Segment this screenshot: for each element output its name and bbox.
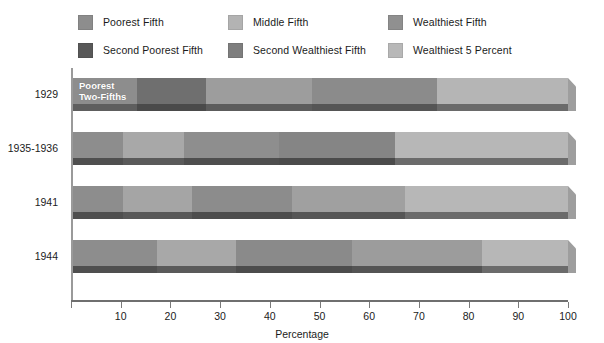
legend-item-wealthiest_fifth: Wealthiest Fifth <box>388 8 578 36</box>
bar-segment-second_poorest_fifth <box>123 186 191 212</box>
row-label-1929: 1929 <box>0 88 58 100</box>
bar-segment-middle_fifth <box>184 132 279 158</box>
chart-legend: Poorest FifthSecond Poorest FifthMiddle … <box>78 8 578 64</box>
bar-segment-shadow-middle_fifth <box>184 158 279 165</box>
x-tick-50 <box>320 302 321 308</box>
bar-segment-second_poorest_fifth <box>157 240 236 266</box>
bar-segment-shadow-second_poorest_fifth <box>123 158 183 165</box>
legend-item-poorest_fifth: Poorest Fifth <box>78 8 228 36</box>
bar-segment-second_wealthiest_fifth <box>352 240 483 266</box>
x-tick-label-10: 10 <box>115 310 127 322</box>
legend-swatch-wealthiest_5_percent <box>388 43 403 58</box>
bar-segment-poorest_fifth <box>73 132 123 158</box>
row-label-1944: 1944 <box>0 250 58 262</box>
bar-segment-wealthiest_fifth <box>482 240 568 266</box>
legend-swatch-wealthiest_fifth <box>388 15 403 30</box>
x-tick-90 <box>518 302 519 308</box>
bar-right-cap <box>568 132 576 165</box>
x-tick-label-40: 40 <box>264 310 276 322</box>
bar-segment-shadow-wealthiest_fifth <box>437 104 568 111</box>
bar-bottom-edge <box>73 266 568 273</box>
bar-segment-shadow-second_poorest_fifth <box>157 266 236 273</box>
bar-face <box>73 132 568 158</box>
bar-segment-second_wealthiest_fifth <box>279 132 395 158</box>
x-axis-title: Percentage <box>0 328 604 340</box>
bar-row: 1929Poorest Two-Fifths <box>0 76 604 122</box>
bar-face <box>73 240 568 266</box>
x-tick-30 <box>220 302 221 308</box>
bar-segment-shadow-poorest_fifth <box>73 104 137 111</box>
bar-segment-shadow-second_poorest_fifth <box>137 104 205 111</box>
legend-swatch-second_poorest_fifth <box>78 43 93 58</box>
bar-segment-second_poorest_fifth <box>123 132 183 158</box>
bar-segment-shadow-middle_fifth <box>236 266 351 273</box>
bar-row: 1944 <box>0 238 604 284</box>
x-tick-label-90: 90 <box>512 310 524 322</box>
x-tick-0 <box>71 302 72 308</box>
bar-segment-poorest_fifth <box>73 78 137 104</box>
legend-label-wealthiest_fifth: Wealthiest Fifth <box>413 16 487 28</box>
row-label-1941: 1941 <box>0 196 58 208</box>
legend-label-second_poorest_fifth: Second Poorest Fifth <box>103 44 203 56</box>
bar-segment-middle_fifth <box>192 186 292 212</box>
bar-segment-second_wealthiest_fifth <box>312 78 437 104</box>
bar-segment-wealthiest_fifth <box>405 186 568 212</box>
row-label-1935-1936: 1935-1936 <box>0 142 58 154</box>
bar-row: 1941 <box>0 184 604 230</box>
x-tick-70 <box>419 302 420 308</box>
x-tick-80 <box>469 302 470 308</box>
legend-label-wealthiest_5_percent: Wealthiest 5 Percent <box>413 44 512 56</box>
bar-right-cap <box>568 186 576 219</box>
x-tick-40 <box>270 302 271 308</box>
legend-item-wealthiest_5_percent: Wealthiest 5 Percent <box>388 36 578 64</box>
stacked-bar-1935-1936 <box>73 132 568 166</box>
legend-label-middle_fifth: Middle Fifth <box>253 16 308 28</box>
bar-segment-shadow-poorest_fifth <box>73 212 123 219</box>
x-tick-label-70: 70 <box>413 310 425 322</box>
bar-bottom-edge <box>73 158 568 165</box>
legend-swatch-second_wealthiest_fifth <box>228 43 243 58</box>
bar-segment-wealthiest_fifth <box>437 78 568 104</box>
legend-item-second_poorest_fifth: Second Poorest Fifth <box>78 36 228 64</box>
bar-bottom-edge <box>73 212 568 219</box>
x-tick-20 <box>170 302 171 308</box>
legend-label-second_wealthiest_fifth: Second Wealthiest Fifth <box>253 44 366 56</box>
x-tick-10 <box>121 302 122 308</box>
bar-segment-shadow-poorest_fifth <box>73 266 157 273</box>
stacked-bar-1944 <box>73 240 568 274</box>
legend-swatch-middle_fifth <box>228 15 243 30</box>
bar-segment-second_poorest_fifth <box>137 78 205 104</box>
x-tick-60 <box>369 302 370 308</box>
bar-segment-shadow-second_wealthiest_fifth <box>312 104 437 111</box>
x-tick-label-30: 30 <box>214 310 226 322</box>
chart-plot-area: 1929Poorest Two-Fifths1935-193619411944 … <box>0 64 604 343</box>
bar-segment-middle_fifth <box>236 240 351 266</box>
stacked-bar-1929: Poorest Two-Fifths <box>73 78 568 112</box>
stacked-bar-1941 <box>73 186 568 220</box>
x-tick-label-80: 80 <box>463 310 475 322</box>
bar-segment-middle_fifth <box>206 78 312 104</box>
bar-segment-shadow-middle_fifth <box>206 104 312 111</box>
bar-segment-shadow-wealthiest_fifth <box>405 212 568 219</box>
x-tick-label-50: 50 <box>314 310 326 322</box>
bar-segment-shadow-middle_fifth <box>192 212 292 219</box>
bar-segment-shadow-second_wealthiest_fifth <box>279 158 395 165</box>
bar-segment-wealthiest_fifth <box>395 132 568 158</box>
bar-segment-shadow-second_wealthiest_fifth <box>352 266 483 273</box>
x-tick-100 <box>568 302 569 308</box>
x-tick-label-60: 60 <box>363 310 375 322</box>
x-tick-label-100: 100 <box>559 310 577 322</box>
bar-face <box>73 78 568 104</box>
legend-item-second_wealthiest_fifth: Second Wealthiest Fifth <box>228 36 388 64</box>
bar-segment-shadow-poorest_fifth <box>73 158 123 165</box>
legend-label-poorest_fifth: Poorest Fifth <box>103 16 164 28</box>
bar-right-cap <box>568 78 576 111</box>
bar-segment-shadow-second_poorest_fifth <box>123 212 191 219</box>
bar-segment-shadow-wealthiest_fifth <box>482 266 568 273</box>
bar-segment-second_wealthiest_fifth <box>292 186 404 212</box>
bar-segment-shadow-wealthiest_fifth <box>395 158 568 165</box>
bar-segment-poorest_fifth <box>73 240 157 266</box>
bar-bottom-edge <box>73 104 568 111</box>
bar-right-cap <box>568 240 576 273</box>
bar-segment-shadow-second_wealthiest_fifth <box>292 212 404 219</box>
